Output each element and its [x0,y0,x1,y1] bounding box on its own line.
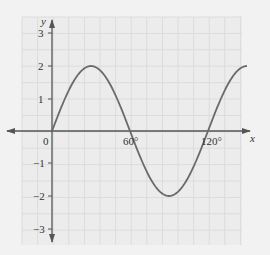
sine-graph: y x 0 60° 120° 3 2 1 −1 −2 −3 [0,0,270,255]
y-axis-label: y [40,15,46,27]
x-tick-120: 120° [201,135,222,147]
y-tick-minus-1: −1 [33,157,45,169]
y-tick-1: 1 [38,93,44,105]
y-tick-minus-3: −3 [33,223,45,235]
y-tick-2: 2 [38,60,44,72]
x-tick-60: 60° [123,135,138,147]
y-tick-minus-2: −2 [33,190,45,202]
origin-label: 0 [43,135,49,147]
x-axis-left-arrow-icon [6,128,15,134]
y-tick-3: 3 [38,27,44,39]
x-axis-label: x [249,132,255,144]
